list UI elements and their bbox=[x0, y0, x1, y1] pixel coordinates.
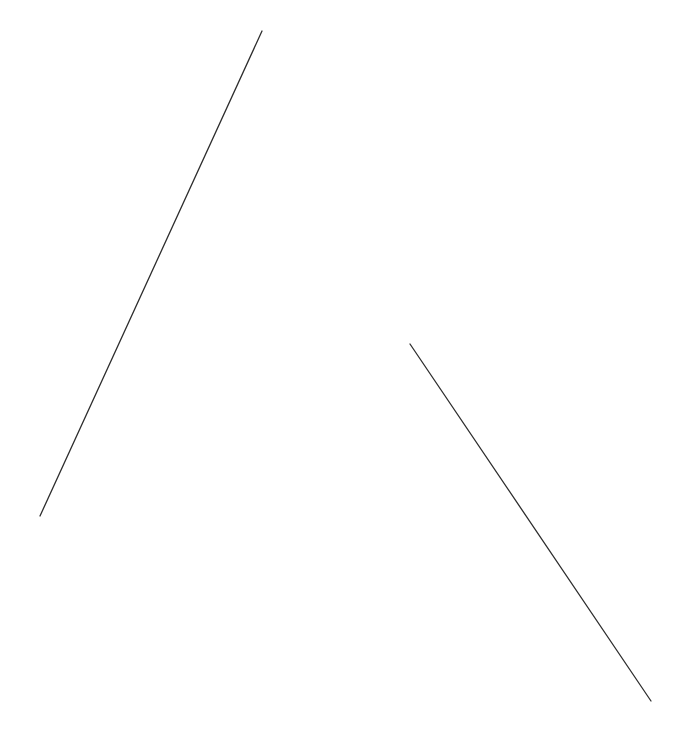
diagonal-line-left bbox=[40, 31, 262, 516]
drawing-canvas bbox=[0, 0, 686, 731]
line-drawing bbox=[0, 0, 686, 731]
diagonal-line-right bbox=[410, 344, 651, 701]
